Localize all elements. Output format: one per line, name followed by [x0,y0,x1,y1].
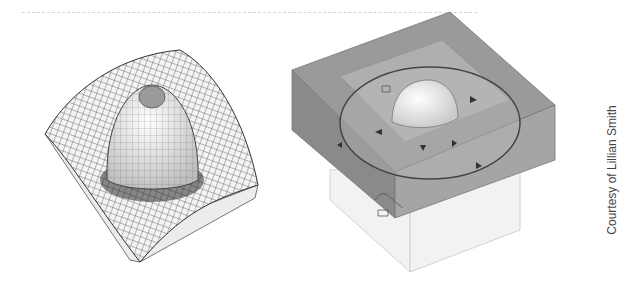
image-credit: Courtesy of Lillian Smith [605,105,619,234]
box-model-figure [280,10,580,280]
mesh-surface-figure [30,30,260,270]
